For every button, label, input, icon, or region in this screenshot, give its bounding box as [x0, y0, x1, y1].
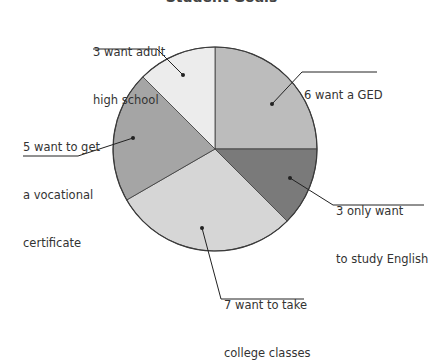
dot-ged	[270, 102, 274, 106]
label-adult-hs: 3 want adult high school	[93, 12, 165, 124]
label-vocational: 5 want to get a vocational certificate	[23, 107, 100, 267]
dot-adult-hs	[181, 73, 185, 77]
pie-slice-ged	[215, 47, 317, 149]
label-line: 3 only want	[336, 203, 428, 219]
label-college: 7 want to take college classes	[224, 265, 310, 364]
label-line: to study English	[336, 251, 428, 267]
label-line: 3 want adult	[93, 44, 165, 60]
label-line: high school	[93, 92, 165, 108]
label-line: certificate	[23, 235, 100, 251]
label-line: college classes	[224, 345, 310, 361]
label-ged: 6 want a GED	[304, 55, 383, 119]
label-english: 3 only want to study English	[336, 171, 428, 283]
label-line: 7 want to take	[224, 297, 310, 313]
label-line: 6 want a GED	[304, 87, 383, 103]
label-line: 5 want to get	[23, 139, 100, 155]
dot-vocational	[131, 136, 135, 140]
dot-college	[200, 226, 204, 230]
dot-english	[288, 176, 292, 180]
label-line: a vocational	[23, 187, 100, 203]
